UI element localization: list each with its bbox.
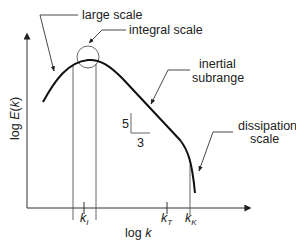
tick-label-k-T: kT [161, 211, 173, 227]
large-scale-label: large scale [82, 8, 142, 22]
tick-label-k-I: kI [80, 211, 89, 227]
dissipation-scale-pointer [199, 132, 233, 171]
x-axis-label: log k [125, 226, 152, 240]
large-scale-pointer [40, 15, 78, 71]
inertial-subrange-pointer [151, 70, 190, 104]
energy-spectrum-diagram: 5 3 large scale integral scale inertial … [0, 0, 296, 246]
tick-label-k-K: kK [185, 211, 197, 227]
integral-scale-pointer [89, 30, 126, 43]
integral-scale-label: integral scale [129, 23, 203, 37]
inertial-subrange-label-2: subrange [192, 71, 244, 85]
inertial-subrange-label-1: inertial [199, 57, 236, 71]
slope-triangle [131, 113, 150, 133]
slope-run-label: 3 [137, 136, 144, 150]
y-axis-label: log E(k) [8, 97, 22, 140]
slope-rise-label: 5 [122, 117, 129, 131]
integral-scale-circle [77, 46, 99, 68]
spectrum-curve [43, 60, 195, 193]
dissipation-scale-label-2: scale [250, 132, 279, 146]
dissipation-scale-label-1: dissipation [238, 119, 296, 133]
